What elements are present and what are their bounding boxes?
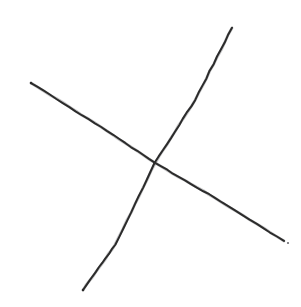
paper-background	[0, 0, 301, 307]
ascending-stroke-start-cap	[82, 289, 84, 291]
descending-stroke-start-cap	[30, 82, 32, 84]
drawing-surface	[0, 0, 301, 307]
drawing-canvas	[0, 0, 301, 307]
marks-group	[287, 242, 289, 244]
ink-speck	[287, 242, 289, 244]
